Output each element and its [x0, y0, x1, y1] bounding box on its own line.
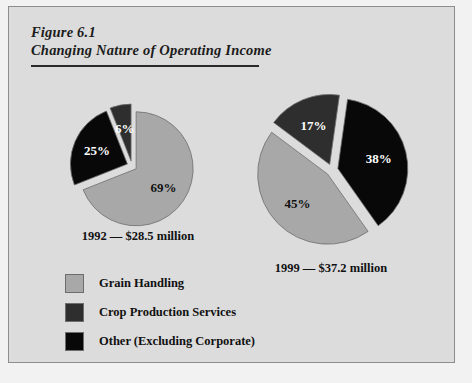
legend-label-grain-handling: Grain Handling: [99, 276, 184, 291]
pie-caption-1992: 1992 — $28.5 million: [53, 229, 223, 244]
pie-slice-label: 38%: [366, 151, 392, 166]
legend-item-crop-production-services: Crop Production Services: [65, 298, 255, 327]
chart-legend: Grain Handling Crop Production Services …: [65, 269, 255, 356]
figure-title-block: Figure 6.1 Changing Nature of Operating …: [31, 23, 261, 59]
pie-slice-label: 69%: [150, 180, 176, 195]
legend-item-grain-handling: Grain Handling: [65, 269, 255, 298]
pie-chart-1999-svg: 38%45%17%: [245, 87, 421, 259]
pie-chart-1999: 38%45%17%: [245, 87, 421, 259]
title-underline-rule: [31, 65, 259, 67]
legend-label-other-excluding-corporate: Other (Excluding Corporate): [99, 334, 255, 349]
pie-slice-label: 6%: [115, 121, 134, 136]
pie-slice-label: 17%: [301, 118, 327, 133]
legend-item-other-excluding-corporate: Other (Excluding Corporate): [65, 327, 255, 356]
pie-slice-label: 25%: [84, 143, 110, 158]
pie-caption-1999: 1999 — $37.2 million: [241, 261, 421, 276]
legend-swatch-grain-handling: [65, 274, 84, 293]
pie-slice-label: 45%: [285, 196, 311, 211]
pie-chart-1992: 69%25%6%: [61, 97, 211, 237]
figure-container: Figure 6.1 Changing Nature of Operating …: [8, 6, 455, 363]
legend-swatch-crop-production-services: [65, 303, 84, 322]
page-title: Changing Nature of Operating Income: [31, 41, 261, 59]
legend-swatch-other-excluding-corporate: [65, 332, 84, 351]
legend-label-crop-production-services: Crop Production Services: [99, 305, 236, 320]
pie-chart-1992-svg: 69%25%6%: [61, 97, 211, 237]
figure-number: Figure 6.1: [31, 23, 261, 41]
